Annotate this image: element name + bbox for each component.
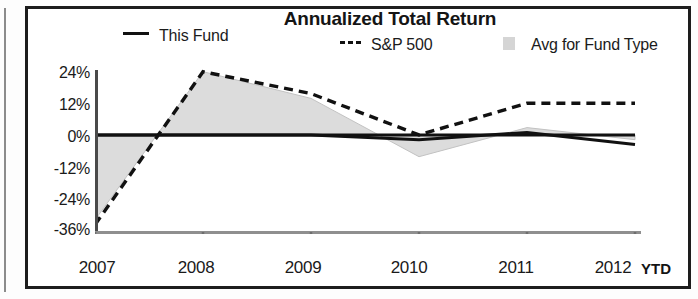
chart-title: Annualized Total Return [235, 8, 545, 30]
x-axis-tick-2011: 2011 [481, 258, 551, 278]
x-axis-ytd-label: YTD [641, 260, 671, 277]
x-axis-tick-2009: 2009 [268, 258, 338, 278]
y-axis-tick-0: 0% [28, 128, 90, 146]
y-axis-tick-neg24: -24% [28, 191, 90, 209]
legend-item-this-fund: This Fund [123, 26, 228, 45]
chart-plot-svg [95, 62, 641, 234]
x-axis-tick-2010: 2010 [374, 258, 444, 278]
legend-label-avg-fund-type: Avg for Fund Type [531, 36, 658, 54]
x-axis-tick-2012: 2012 [578, 258, 648, 278]
page-edge-rule [4, 8, 6, 292]
avg-fund-type-area [95, 72, 635, 220]
y-axis-tick-neg12: -12% [28, 160, 90, 178]
legend-item-avg-fund-type: Avg for Fund Type [503, 35, 658, 54]
x-axis-tick-2008: 2008 [161, 258, 231, 278]
y-axis-tick-12: 12% [28, 96, 90, 114]
area-fill-swatch-icon [503, 37, 515, 50]
legend-label-sp500: S&P 500 [371, 36, 432, 54]
solid-line-swatch-icon [123, 32, 149, 35]
plot-area [95, 62, 641, 234]
series-line-sp500 [95, 72, 635, 225]
chart-header: Annualized Total Return This Fund S&P 50… [25, 6, 691, 58]
y-axis-tick-24: 24% [28, 64, 90, 82]
legend-label-this-fund: This Fund [159, 27, 228, 45]
x-axis-tick-2007: 2007 [62, 258, 132, 278]
scanned-page: Annualized Total Return This Fund S&P 50… [0, 0, 698, 299]
dashed-line-swatch-icon [340, 41, 364, 44]
y-axis-tick-neg36: -36% [28, 221, 90, 239]
legend-item-sp500: S&P 500 [340, 35, 432, 54]
